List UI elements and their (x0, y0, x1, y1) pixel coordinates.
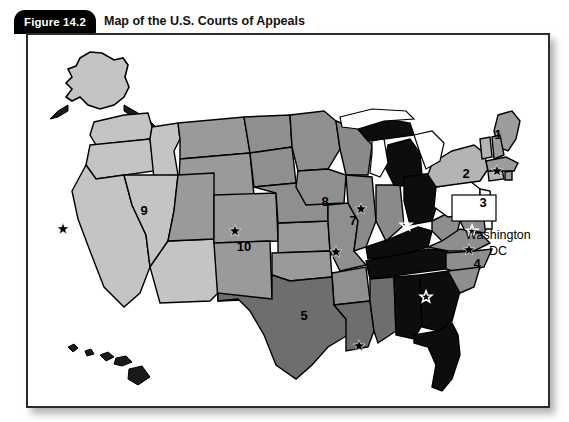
state-indiana (376, 185, 404, 241)
circuit-5-label: 5 (300, 308, 307, 323)
circuit-11-region (394, 271, 460, 391)
state-vermont (480, 137, 492, 159)
circuit-1-label: 1 (494, 127, 501, 142)
circuit-7-label: 7 (349, 213, 356, 228)
circuit-3-callout (452, 195, 496, 221)
state-south-dakota (250, 147, 296, 187)
figure-number-tab: Figure 14.2 (14, 10, 96, 34)
circuit-8-label: 8 (321, 194, 328, 209)
hawaii-shape (68, 344, 150, 385)
state-florida (414, 323, 460, 391)
state-montana (178, 117, 250, 159)
figure-title: Map of the U.S. Courts of Appeals (104, 14, 305, 28)
circuit-3-label: 3 (479, 195, 486, 210)
lake-michigan (370, 139, 388, 177)
state-arkansas (332, 267, 370, 305)
circuit-9-label: 9 (140, 203, 147, 218)
alaska-shape (66, 52, 129, 109)
washington-dc-line-1: Washington (465, 228, 531, 242)
washington-dc-line-2: DC (489, 244, 507, 258)
us-courts-of-appeals-map: 1234578910 Washington DC (28, 35, 548, 406)
state-colorado (214, 193, 278, 243)
state-kansas (278, 221, 330, 253)
circuit-10-label: 10 (237, 239, 251, 254)
circuit-4-label: 4 (473, 256, 481, 271)
state-oregon (86, 139, 154, 179)
state-north-dakota (244, 115, 292, 153)
state-alabama (394, 275, 422, 339)
circuit-2-label: 2 (462, 166, 469, 181)
figure-panel: 1234578910 Washington DC (26, 33, 550, 408)
state-minnesota (290, 111, 340, 171)
state-idaho (150, 123, 180, 179)
figure-number-label: Figure 14.2 (24, 16, 86, 28)
seat-san-francisco-star-icon (57, 223, 69, 234)
state-oklahoma (272, 251, 332, 281)
hawaii-inset (68, 344, 150, 385)
state-rhode-island (505, 171, 512, 180)
